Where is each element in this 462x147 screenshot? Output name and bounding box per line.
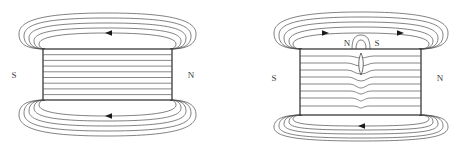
field-loop-2-top — [29, 23, 186, 49]
field-loops-bottom-right-panel — [274, 115, 448, 141]
field-loop-outer-top — [274, 12, 448, 49]
field-loops-top-left-panel — [19, 13, 196, 49]
field-direction-arrow-top-left — [322, 30, 329, 36]
crack-leakage-loop-inner — [356, 40, 366, 49]
pole-label-left-cracked: S — [271, 73, 276, 83]
pole-label-crack-left: N — [344, 38, 351, 48]
field-loop-1-bottom — [34, 100, 181, 121]
field-loop-2-top — [284, 22, 438, 49]
magnet-body-intact — [43, 49, 172, 100]
field-loop-0-bottom — [39, 100, 176, 116]
field-loop-outer-bottom — [19, 100, 196, 136]
field-loops-bottom-left-panel — [19, 100, 196, 136]
field-direction-arrow-bottom — [358, 123, 365, 129]
field-direction-arrow-top — [105, 30, 112, 36]
field-loop-1-bottom — [289, 115, 433, 130]
crack-leakage-loops — [352, 35, 370, 49]
field-line-diagram: S N — [0, 0, 462, 147]
field-loop-1-top — [34, 28, 181, 49]
field-loops-top-right-panel — [274, 12, 448, 49]
pole-label-right-intact: N — [188, 70, 195, 80]
panel-intact-magnet: S N — [11, 13, 196, 136]
field-direction-arrow-top-right — [397, 30, 404, 36]
field-loop-outer-top — [19, 13, 196, 49]
pole-label-right-cracked: N — [437, 73, 444, 83]
field-loop-0-top — [39, 33, 176, 49]
field-loop-2-bottom — [29, 100, 186, 126]
pole-label-crack-right: S — [374, 38, 379, 48]
panel-cracked-magnet: S N N S — [271, 12, 448, 141]
crack-defect — [359, 53, 364, 75]
field-direction-arrow-bottom — [105, 113, 112, 119]
field-loop-0-bottom — [293, 115, 429, 126]
field-loop-1-top — [289, 27, 433, 49]
pole-label-left-intact: S — [11, 70, 16, 80]
crack-leakage-loop-outer — [352, 35, 370, 49]
field-loop-0-top — [293, 33, 429, 49]
magnetic-field-figure: S N — [0, 0, 462, 147]
